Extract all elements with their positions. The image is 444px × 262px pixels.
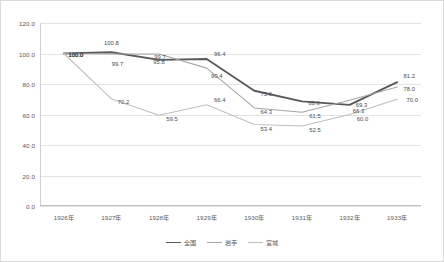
y-axis-tick-label: 60.0 — [23, 111, 35, 118]
data-label: 52.5 — [309, 127, 320, 133]
legend-swatch-icon — [166, 242, 181, 243]
data-label: 96.4 — [214, 51, 225, 57]
data-label: 99.7 — [112, 61, 123, 67]
legend-label: 全国 — [184, 238, 196, 247]
x-axis-tick-label: 1933年 — [387, 213, 407, 222]
data-label: 61.5 — [309, 113, 320, 119]
data-label: 64.3 — [261, 109, 272, 115]
x-axis-tick-label: 1926年 — [54, 213, 74, 222]
x-axis-tick-label: 1927年 — [101, 213, 121, 222]
data-label: 68.6 — [308, 100, 319, 106]
legend-item-宮城[interactable]: 宮城 — [248, 238, 278, 247]
x-axis-tick-label: 1932年 — [339, 213, 359, 222]
y-axis-tick-label: 40.0 — [23, 142, 35, 149]
y-axis-tick-label: 100.0 — [19, 50, 35, 57]
y-axis-tick-label: 120.0 — [19, 20, 35, 27]
data-label: 59.5 — [166, 116, 177, 122]
data-label: 70.0 — [406, 97, 417, 103]
data-label: 75.6 — [261, 91, 272, 97]
data-label: 99.7 — [154, 54, 165, 60]
legend-item-岩手[interactable]: 岩手 — [207, 238, 237, 247]
plot-area: 0.020.040.060.080.0100.0120.0 1926年1927年… — [40, 23, 421, 206]
data-label: 66.4 — [214, 97, 225, 103]
legend-swatch-icon — [248, 242, 263, 243]
data-label: 100.8 — [104, 40, 119, 46]
legend-swatch-icon — [207, 242, 222, 243]
data-label: 53.4 — [261, 126, 272, 132]
chart-legend: 全国岩手宮城 — [1, 238, 443, 247]
data-label: 78.0 — [403, 86, 414, 92]
x-axis-tick-label: 1931年 — [292, 213, 312, 222]
data-label: 100.0 — [68, 52, 83, 58]
series-lines — [40, 23, 421, 206]
data-label: 60.0 — [357, 116, 368, 122]
legend-label: 岩手 — [225, 238, 237, 247]
legend-item-全国[interactable]: 全国 — [166, 238, 196, 247]
y-axis-tick-label: 80.0 — [23, 81, 35, 88]
x-axis-tick-label: 1928年 — [149, 213, 169, 222]
data-label: 69.3 — [356, 102, 367, 108]
gridline — [40, 206, 421, 207]
data-label: 70.2 — [118, 99, 129, 105]
x-axis-tick-label: 1929年 — [197, 213, 217, 222]
data-label: 66.3 — [353, 108, 364, 114]
legend-label: 宮城 — [266, 238, 278, 247]
y-axis-tick-label: 20.0 — [23, 172, 35, 179]
line-chart: 0.020.040.060.080.0100.0120.0 1926年1927年… — [0, 0, 444, 262]
x-axis-tick-label: 1930年 — [244, 213, 264, 222]
y-axis-tick-label: 0.0 — [26, 203, 35, 210]
data-label: 90.4 — [211, 73, 222, 79]
data-label: 81.2 — [403, 73, 414, 79]
